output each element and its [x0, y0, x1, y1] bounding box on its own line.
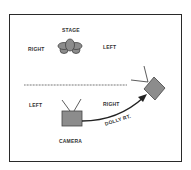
camera-area-right-label: RIGHT [103, 101, 120, 107]
stage-left-label: LEFT [103, 44, 116, 50]
stage-figure-icon [58, 39, 82, 54]
camera-end-icon [131, 66, 165, 100]
stage-right-label: RIGHT [28, 46, 45, 52]
camera-start-icon [62, 99, 82, 126]
stage-title: STAGE [62, 27, 80, 33]
camera-label: CAMERA [59, 138, 82, 144]
camera-area-left-label: LEFT [29, 102, 42, 108]
diagram-art [0, 0, 191, 170]
